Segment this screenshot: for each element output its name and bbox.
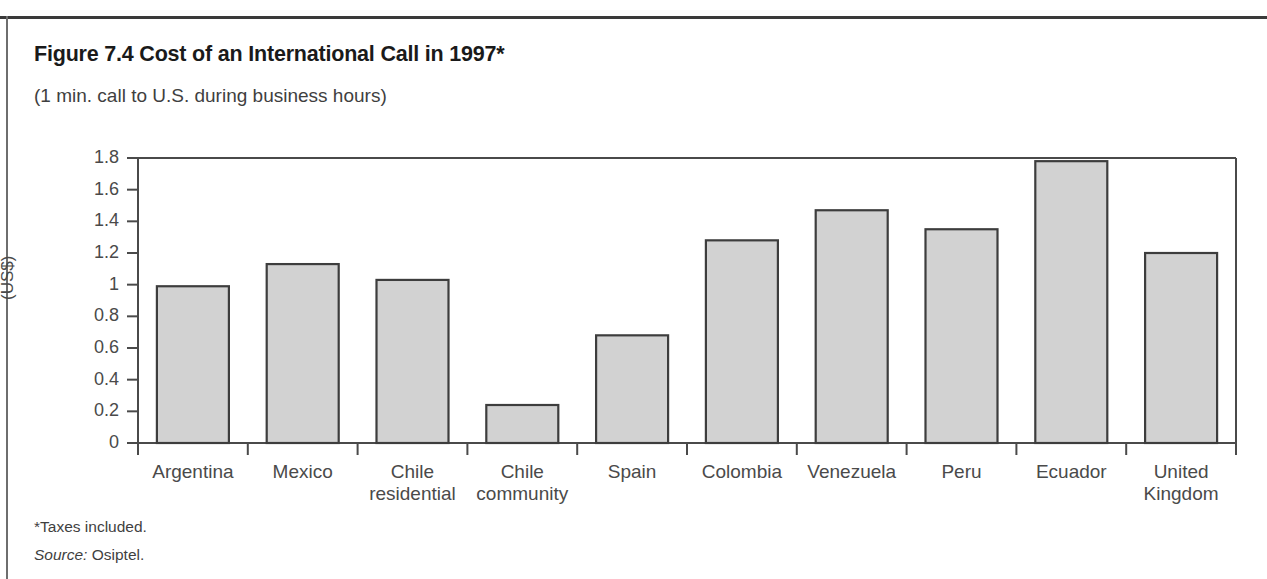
bar [1145,253,1217,443]
x-tick-label-line: Argentina [152,461,233,482]
bar [816,210,888,443]
bar [157,286,229,443]
footnote-source-value: Osiptel. [92,546,145,563]
bar [1035,161,1107,443]
y-tick-label: 1.2 [63,242,119,263]
y-tick-label: 1.8 [63,147,119,168]
footnote-source: Source: Osiptel. [34,546,144,564]
x-tick-label-line: Venezuela [807,461,896,482]
bar [267,264,339,443]
chart-canvas [0,0,1267,579]
x-tick-label-line: Spain [608,461,657,482]
y-tick-label: 1 [63,274,119,295]
bar [486,405,558,443]
x-tick-label-line: Mexico [273,461,333,482]
y-tick-label: 1.6 [63,179,119,200]
x-tick-label-line: United [1154,461,1209,482]
y-tick-label: 0.8 [63,305,119,326]
y-tick-label: 1.4 [63,210,119,231]
figure-page: Figure 7.4 Cost of an International Call… [0,0,1267,579]
x-tick-label-line: Ecuador [1036,461,1107,482]
x-tick-label: UnitedKingdom [1106,461,1256,505]
x-tick-label-line: Kingdom [1106,483,1256,505]
bar [706,240,778,443]
y-tick-label: 0.4 [63,369,119,390]
y-tick-label: 0.6 [63,337,119,358]
bar [926,229,998,443]
y-tick-label: 0 [63,432,119,453]
x-tick-label-line: Chile [501,461,544,482]
x-tick-label-line: Colombia [702,461,782,482]
x-tick-label-line: community [447,483,597,505]
footnote-source-label: Source: [34,546,87,563]
y-tick-label: 0.2 [63,400,119,421]
bar [596,335,668,443]
bar [377,280,449,443]
bar-chart: (US$) 00.20.40.60.811.21.41.61.8 Argenti… [0,0,1267,579]
x-tick-label-line: Peru [941,461,981,482]
x-tick-label-line: Chile [391,461,434,482]
footnote-taxes: *Taxes included. [34,518,147,536]
